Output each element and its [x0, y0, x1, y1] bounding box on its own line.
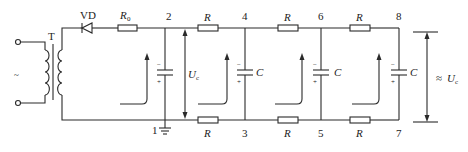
node-2: 2 [166, 10, 172, 22]
cap4-plus: + [391, 78, 395, 86]
node-7: 7 [396, 127, 402, 139]
node-1: 1 [152, 124, 158, 136]
uc-subscript: c [196, 74, 199, 82]
input-terminal-bottom [16, 101, 21, 106]
resistor-bottom-3 [350, 117, 370, 123]
node-4: 4 [242, 10, 248, 22]
resistor-bottom-1-label: R [203, 127, 211, 139]
transformer-label: T [48, 30, 55, 42]
resistor-top-2 [278, 25, 298, 31]
current-loop-arrow-4-icon [352, 53, 382, 104]
ground-icon [159, 128, 171, 134]
cap1-plus: + [157, 78, 161, 86]
capacitor-3-icon [313, 28, 329, 120]
transformer-secondary-icon [58, 50, 62, 95]
cap2-plus: + [237, 78, 241, 86]
capacitor-3-label: C [334, 66, 342, 78]
cap2-minus: − [237, 61, 241, 69]
cap4-minus: − [391, 61, 395, 69]
diode-label: VD [80, 9, 96, 21]
resistor-bottom-1 [198, 117, 218, 123]
transformer-primary-icon [45, 50, 49, 95]
resistor-top-1 [198, 25, 218, 31]
diode-icon [80, 23, 100, 33]
resistor-r0-subscript: 0 [127, 15, 131, 23]
capacitor-4-icon [391, 28, 407, 120]
node-8: 8 [396, 10, 402, 22]
current-loop-arrow-1-icon [120, 53, 150, 104]
capacitor-2-icon [237, 28, 253, 120]
resistor-top-3-label: R [355, 11, 363, 23]
capacitor-2-label: C [256, 66, 264, 78]
resistor-r0-label: R [119, 9, 127, 21]
resistor-r0 [118, 25, 137, 31]
output-uc-subscript: c [455, 78, 458, 86]
circuit-diagram: ~ T VD R 0 R R R R R R [0, 0, 468, 152]
current-loop-arrow-3-icon [275, 53, 305, 104]
cap3-minus: − [313, 61, 317, 69]
resistor-bottom-3-label: R [355, 127, 363, 139]
node-5: 5 [318, 127, 324, 139]
cap3-plus: + [313, 78, 317, 86]
resistor-bottom-2-label: R [283, 127, 291, 139]
current-loop-arrow-2-icon [198, 53, 230, 104]
input-terminal-top [16, 40, 21, 45]
capacitor-4-label: C [410, 66, 418, 78]
node-3: 3 [242, 127, 248, 139]
resistor-top-3 [350, 25, 370, 31]
node-6: 6 [318, 10, 324, 22]
cap1-minus: − [157, 61, 161, 69]
resistor-top-2-label: R [283, 11, 291, 23]
ac-source-symbol: ~ [14, 70, 19, 80]
resistor-top-1-label: R [203, 11, 211, 23]
output-approx: ≈ [436, 72, 442, 84]
uc-double-arrow-icon [183, 29, 188, 119]
resistor-bottom-2 [278, 117, 298, 123]
